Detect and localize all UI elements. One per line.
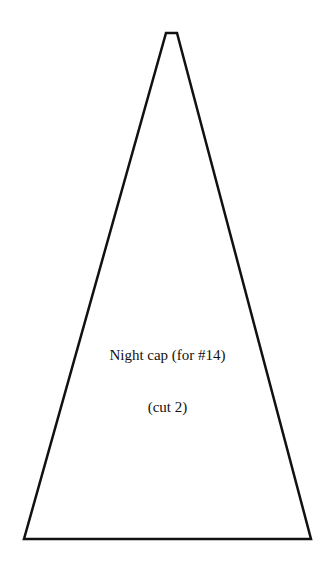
cut-instruction: (cut 2): [4, 399, 327, 416]
pattern-outline: [0, 0, 327, 573]
pattern-title: Night cap (for #14): [4, 347, 327, 364]
night-cap-pattern-piece: [24, 33, 311, 539]
